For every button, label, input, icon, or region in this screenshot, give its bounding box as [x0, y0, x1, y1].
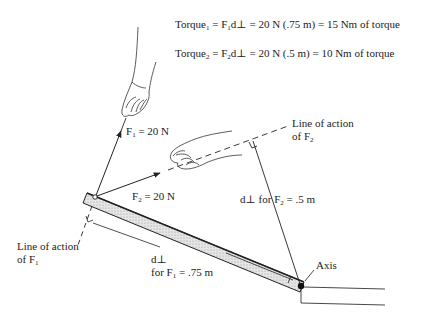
line-of-action-f2-label: Line of action of F2 [292, 117, 354, 147]
dperp-f1-label: d⊥ for F1 = .75 m [151, 253, 213, 283]
dperp-f1-line1: d⊥ [151, 253, 213, 266]
line-of-action-f1-sub: 1 [35, 259, 39, 267]
dperp-f2-a: d⊥ for F [240, 193, 280, 205]
axis-label: Axis [316, 259, 337, 272]
torque2-eq: = F [210, 47, 228, 59]
dperp-f1-a: for F [151, 266, 173, 278]
line-of-action-f1-of: of F [17, 253, 35, 265]
torque1-value: d⊥ = 20 N (.75 m) = 15 Nm of torque [231, 18, 400, 30]
line-of-action-f2-of: of F [292, 130, 310, 142]
torque1-equation: Torque1 = F1d⊥ = 20 N (.75 m) = 15 Nm of… [175, 18, 400, 32]
dperp-f1-line2: for F1 = .75 m [151, 266, 213, 283]
line-of-action-f1-line2: of F1 [17, 253, 79, 270]
torque2-equation: Torque2 = F2d⊥ = 20 N (.5 m) = 10 Nm of … [175, 47, 394, 61]
torque2-label: Torque [175, 47, 206, 59]
f1-value: = 20 N [136, 125, 169, 137]
line-of-action-f2-line2: of F2 [292, 130, 354, 147]
f2-value: = 20 N [142, 190, 175, 202]
dperp-f1-value: = .75 m [176, 266, 213, 278]
torque2-value: d⊥ = 20 N (.5 m) = 10 Nm of torque [231, 47, 395, 59]
dperp-f2-label: d⊥ for F2 = .5 m [240, 193, 315, 210]
axis-leader [305, 270, 314, 281]
axis-pivot [298, 283, 304, 289]
f1-label: F1 = 20 N [126, 125, 169, 142]
torque1-label: Torque [175, 18, 206, 30]
f2-label: F2 = 20 N [132, 190, 175, 207]
f1-application-point [93, 195, 97, 199]
support-platform [301, 287, 385, 305]
line-of-action-f1-line1: Line of action [17, 240, 79, 253]
line-of-action-f2-line1: Line of action [292, 117, 354, 130]
hand-f2-icon [170, 131, 242, 169]
line-of-action-f1-label: Line of action of F1 [17, 240, 79, 270]
dperp-f2-value: = .5 m [284, 193, 315, 205]
line-of-action-f2-sub: 2 [310, 136, 314, 144]
hand-f1-icon [122, 27, 156, 116]
torque1-eq: = F [210, 18, 228, 30]
